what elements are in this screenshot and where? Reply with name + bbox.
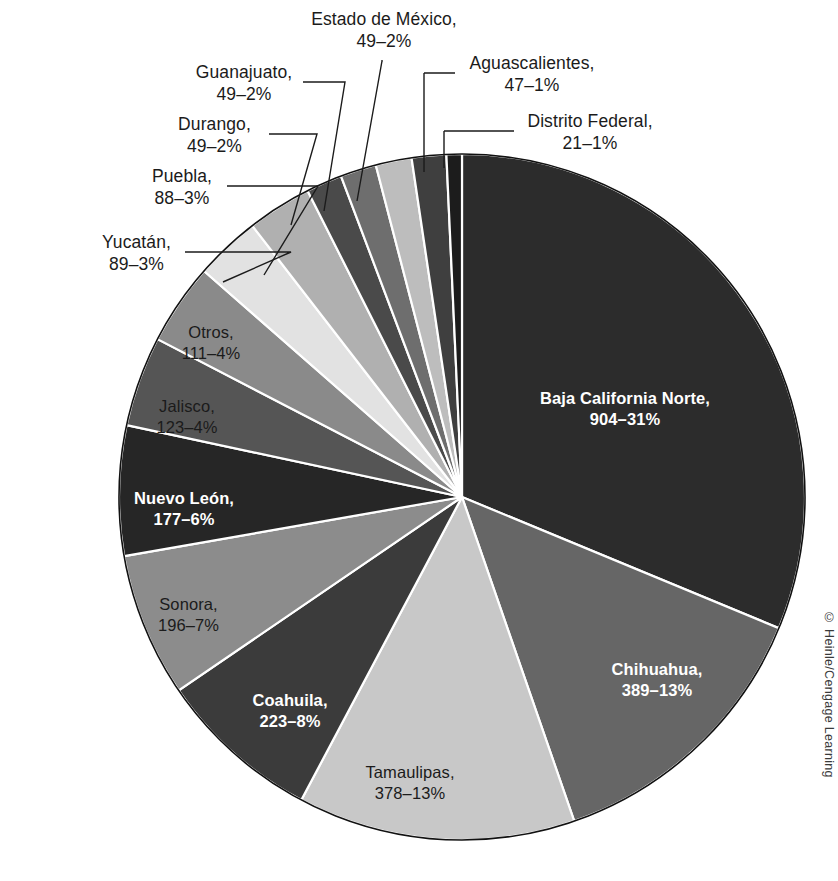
slice-label-line2: 378–13%: [335, 783, 485, 804]
slice-label-line1: Tamaulipas,: [335, 762, 485, 783]
slice-label-line1: Nuevo León,: [104, 488, 264, 509]
chart-canvas: Estado de México, 49–2% Guanajuato, 49–2…: [0, 0, 838, 881]
slice-label-line2: 223–8%: [222, 711, 358, 732]
callout-label-line1: Aguascalientes,: [461, 52, 603, 74]
slice-label-nuevo-leon: Nuevo León, 177–6%: [104, 488, 264, 531]
slice-label-jalisco: Jalisco, 123–4%: [126, 396, 248, 439]
callout-label-line1: Durango,: [160, 113, 269, 135]
callout-distrito-federal: Distrito Federal, 21–1%: [520, 110, 660, 155]
slice-label-line2: 196–7%: [126, 615, 251, 636]
callout-label-line2: 21–1%: [520, 132, 660, 154]
callout-durango: Durango, 49–2%: [160, 113, 269, 158]
callout-label-line1: Yucatán,: [88, 231, 185, 253]
callout-puebla: Puebla, 88–3%: [137, 165, 227, 210]
callout-label-line1: Estado de México,: [286, 8, 482, 30]
slice-label-line1: Coahuila,: [222, 690, 358, 711]
callout-estado-de-mexico: Estado de México, 49–2%: [286, 8, 482, 53]
callout-label-line1: Puebla,: [137, 165, 227, 187]
slice-label-line2: 123–4%: [126, 417, 248, 438]
callout-label-line2: 88–3%: [137, 187, 227, 209]
slice-label-baja-california-norte: Baja California Norte, 904–31%: [520, 388, 730, 431]
callout-guanajuato: Guanajuato, 49–2%: [185, 61, 303, 106]
slice-label-line1: Chihuahua,: [582, 659, 732, 680]
callout-label-line2: 49–2%: [185, 83, 303, 105]
slice-label-line1: Baja California Norte,: [520, 388, 730, 409]
pie-chart-svg: [0, 0, 838, 881]
slice-label-line1: Sonora,: [126, 594, 251, 615]
slice-label-line1: Jalisco,: [126, 396, 248, 417]
slice-label-sonora: Sonora, 196–7%: [126, 594, 251, 637]
callout-label-line2: 49–2%: [160, 135, 269, 157]
slice-label-tamaulipas: Tamaulipas, 378–13%: [335, 762, 485, 805]
callout-label-line2: 47–1%: [461, 74, 603, 96]
callout-label-line2: 89–3%: [88, 253, 185, 275]
slice-label-line2: 177–6%: [104, 509, 264, 530]
slice-label-line2: 111–4%: [150, 343, 272, 364]
callout-label-line1: Distrito Federal,: [520, 110, 660, 132]
callout-yucatan: Yucatán, 89–3%: [88, 231, 185, 276]
slice-label-chihuahua: Chihuahua, 389–13%: [582, 659, 732, 702]
slice-label-line1: Otros,: [150, 322, 272, 343]
copyright-notice: © Heinle/Cengage Learning: [822, 611, 836, 778]
slice-label-line2: 904–31%: [520, 409, 730, 430]
slice-label-line2: 389–13%: [582, 680, 732, 701]
callout-label-line1: Guanajuato,: [185, 61, 303, 83]
callout-label-line2: 49–2%: [286, 30, 482, 52]
callout-aguascalientes: Aguascalientes, 47–1%: [461, 52, 603, 97]
slice-label-coahuila: Coahuila, 223–8%: [222, 690, 358, 733]
slice-label-otros: Otros, 111–4%: [150, 322, 272, 365]
